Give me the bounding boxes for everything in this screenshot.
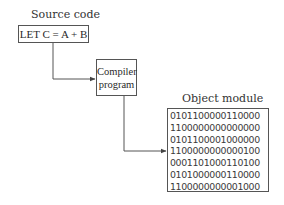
object-code-line: 0101100001000000 xyxy=(170,134,268,146)
compiler-label-line-2: program xyxy=(97,78,136,91)
object-code-line: 0101100000110000 xyxy=(170,110,268,122)
object-module-label: Object module xyxy=(182,93,263,105)
compiler-label-line-1: Compiler xyxy=(97,65,136,78)
object-code-line: 0101000000110000 xyxy=(170,169,268,181)
object-code-line: 1100000000001000 xyxy=(170,181,268,193)
object-module-box: 0101100000110000 1100000000000000 010110… xyxy=(167,108,269,192)
object-code-line: 1100000000000000 xyxy=(170,122,268,134)
object-code-line: 1100000000000100 xyxy=(170,145,268,157)
arrow-source-to-compiler xyxy=(53,43,95,79)
compiler-program-box: Compiler program xyxy=(96,59,137,96)
source-code-box: LET C = A + B xyxy=(18,25,89,43)
arrow-compiler-to-object xyxy=(124,96,166,151)
object-code-line: 0001101000110100 xyxy=(170,157,268,169)
source-code-text: LET C = A + B xyxy=(20,28,88,40)
source-code-label: Source code xyxy=(31,9,100,21)
